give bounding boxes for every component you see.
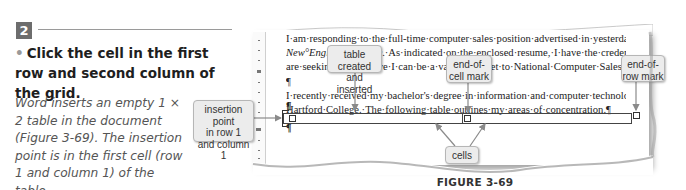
step-instruction: •Click the cell in the first row and sec…: [15, 43, 235, 103]
callout-cells: cells: [445, 146, 479, 164]
callout-end-of-row-mark: end-of- row mark: [621, 55, 665, 82]
vertical-ruler: [253, 32, 266, 164]
callout-insertion-point: insertion point in row 1 and column 1: [193, 100, 254, 142]
column-divider: [462, 113, 463, 124]
cell-1-end-of-cell-mark[interactable]: [289, 115, 296, 122]
bullet-icon: •: [15, 45, 24, 61]
step-number-badge: 2: [16, 22, 32, 39]
end-of-row-mark: [633, 112, 640, 119]
word-table[interactable]: [283, 113, 632, 124]
cell-2-end-of-cell-mark[interactable]: [464, 115, 471, 122]
callout-table-created: table created and inserted: [327, 45, 382, 73]
instruction-text: Click the cell in the first row and seco…: [15, 45, 215, 101]
callout-end-of-cell-mark: end-of- cell mark: [446, 55, 492, 83]
step-divider: [38, 29, 232, 30]
figure-caption: FIGURE 3-69: [430, 176, 520, 188]
step-explanation: Word inserts an empty 1 × 2 table in the…: [15, 95, 185, 190]
